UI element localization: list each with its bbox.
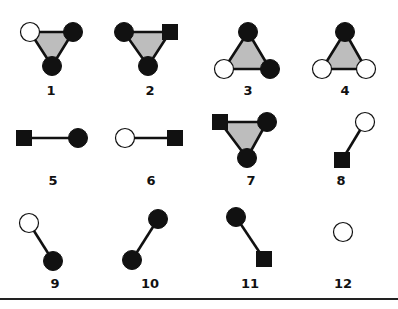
motif-label: 6 — [146, 173, 155, 188]
motif-8: 8 — [335, 113, 375, 189]
black-circle-node-icon — [43, 57, 62, 76]
motif-4: 4 — [313, 23, 376, 99]
black-circle-node-icon — [336, 23, 355, 42]
black-circle-node-icon — [239, 23, 258, 42]
square-node-icon — [335, 153, 350, 168]
motif-12: 12 — [334, 223, 353, 292]
black-circle-node-icon — [115, 23, 134, 42]
motif-10: 10 — [123, 210, 168, 292]
motif-label: 4 — [340, 83, 349, 98]
motif-label: 1 — [46, 83, 55, 98]
square-node-icon — [213, 115, 228, 130]
black-circle-node-icon — [149, 210, 168, 229]
motif-6: 6 — [116, 129, 183, 189]
motif-3: 3 — [215, 23, 280, 99]
white-circle-node-icon — [356, 113, 375, 132]
motif-label: 12 — [334, 276, 352, 291]
motif-11: 11 — [227, 208, 272, 292]
square-node-icon — [257, 252, 272, 267]
motif-label: 11 — [241, 276, 259, 291]
motif-diagram: 123456789101112 — [0, 0, 398, 309]
motif-9: 9 — [20, 214, 63, 292]
white-circle-node-icon — [357, 60, 376, 79]
white-circle-node-icon — [313, 60, 332, 79]
motifs-layer: 123456789101112 — [17, 23, 376, 292]
black-circle-node-icon — [123, 251, 142, 270]
black-circle-node-icon — [44, 252, 63, 271]
motif-label: 10 — [141, 276, 159, 291]
motif-7: 7 — [213, 113, 277, 189]
white-circle-node-icon — [116, 129, 135, 148]
black-circle-node-icon — [139, 57, 158, 76]
black-circle-node-icon — [238, 149, 257, 168]
square-node-icon — [168, 131, 183, 146]
black-circle-node-icon — [258, 113, 277, 132]
black-circle-node-icon — [261, 60, 280, 79]
white-circle-node-icon — [20, 214, 39, 233]
black-circle-node-icon — [227, 208, 246, 227]
motif-5: 5 — [17, 129, 88, 189]
motif-label: 8 — [336, 173, 345, 188]
motif-label: 3 — [243, 83, 252, 98]
white-circle-node-icon — [334, 223, 353, 242]
motif-label: 2 — [145, 83, 154, 98]
motif-label: 5 — [48, 173, 57, 188]
motif-2: 2 — [115, 23, 178, 99]
motif-1: 1 — [21, 23, 83, 99]
white-circle-node-icon — [215, 60, 234, 79]
square-node-icon — [163, 25, 178, 40]
motif-label: 7 — [246, 173, 255, 188]
square-node-icon — [17, 131, 32, 146]
motif-label: 9 — [50, 276, 59, 291]
black-circle-node-icon — [69, 129, 88, 148]
black-circle-node-icon — [64, 23, 83, 42]
white-circle-node-icon — [21, 23, 40, 42]
